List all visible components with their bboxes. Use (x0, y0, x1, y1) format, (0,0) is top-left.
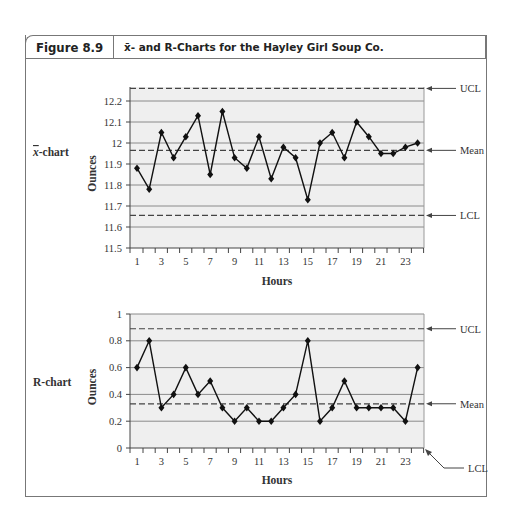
x-tick-label: 7 (208, 456, 213, 467)
control-label: LCL (460, 210, 480, 221)
plot-area (130, 87, 424, 248)
y-tick-label: 11.7 (104, 201, 122, 212)
y-tick-label: 12.2 (104, 96, 122, 107)
x-tick-label: 21 (376, 456, 387, 467)
x-tick-label: 15 (303, 256, 314, 267)
x-axis-title: Hours (262, 474, 293, 486)
y-tick-label: 0.8 (109, 335, 122, 346)
chart-row-label: R-chart (33, 376, 71, 388)
x-tick-label: 1 (134, 256, 139, 267)
y-tick-label: 0.6 (109, 362, 122, 373)
x-tick-label: 19 (351, 456, 362, 467)
x-tick-label: 15 (303, 456, 314, 467)
control-label: Mean (460, 399, 485, 410)
x-tick-label: 17 (327, 456, 338, 467)
y-tick-label: 11.8 (104, 180, 122, 191)
y-tick-label: 11.9 (104, 159, 122, 170)
x-tick-label: 3 (159, 456, 164, 467)
x-axis-title: Hours (262, 275, 293, 287)
x-tick-label: 5 (183, 256, 188, 267)
control-label: LCL (468, 463, 488, 474)
y-tick-label: 11.6 (104, 222, 122, 233)
control-label: Mean (460, 145, 485, 156)
control-label: UCL (460, 324, 481, 335)
y-axis-title: Ounces (86, 155, 98, 192)
x-tick-label: 21 (376, 256, 387, 267)
x-tick-label: 17 (327, 256, 338, 267)
y-tick-label: 11.5 (104, 243, 122, 254)
control-label: UCL (460, 83, 481, 94)
x-tick-label: 11 (254, 456, 264, 467)
r-chart: 00.20.40.60.811357911131517192123UCLMean… (33, 309, 488, 487)
x-tick-label: 5 (183, 456, 188, 467)
x-tick-label: 19 (351, 256, 362, 267)
x-tick-label: 3 (159, 256, 164, 267)
y-axis-title: Ounces (86, 368, 98, 405)
y-tick-label: 0.4 (109, 389, 123, 400)
control-charts: 11.511.611.711.811.91212.112.21357911131… (0, 0, 511, 532)
x-tick-label: 23 (400, 256, 411, 267)
y-tick-label: 12.1 (104, 117, 122, 128)
plot-area (130, 314, 424, 448)
y-tick-label: 1 (117, 309, 122, 320)
y-tick-label: 12 (112, 138, 123, 149)
x-tick-label: 1 (134, 456, 139, 467)
y-tick-label: 0 (117, 443, 122, 454)
y-tick-label: 0.2 (109, 416, 122, 427)
chart-row-label: x-chart (32, 146, 69, 158)
x-tick-label: 13 (278, 256, 289, 267)
x-tick-label: 7 (208, 256, 213, 267)
x-tick-label: 9 (232, 256, 237, 267)
xbar-chart: 11.511.611.711.811.91212.112.21357911131… (32, 83, 485, 287)
x-tick-label: 9 (232, 456, 237, 467)
x-tick-label: 23 (400, 456, 411, 467)
x-tick-label: 11 (254, 256, 264, 267)
x-tick-label: 13 (278, 456, 289, 467)
